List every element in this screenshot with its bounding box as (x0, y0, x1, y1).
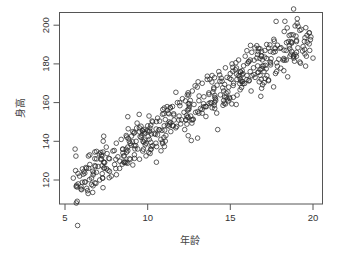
data-point (195, 136, 200, 141)
data-point (255, 64, 260, 69)
data-point (73, 147, 78, 152)
data-point (250, 50, 255, 55)
data-point (144, 154, 149, 159)
data-point (185, 122, 190, 127)
data-point (73, 168, 78, 173)
data-point (296, 46, 301, 51)
data-point (174, 90, 179, 95)
x-tick: 20 (308, 204, 319, 223)
y-tick: 200 (40, 17, 60, 33)
data-point (143, 143, 148, 148)
data-point (75, 199, 80, 204)
data-point (186, 133, 191, 138)
data-point (301, 44, 306, 49)
data-point (146, 134, 151, 139)
data-point (133, 147, 138, 152)
data-point (101, 134, 106, 139)
data-point (154, 127, 159, 132)
x-tick: 15 (225, 204, 236, 223)
data-point (234, 102, 239, 107)
x-tick-label: 5 (62, 212, 67, 223)
data-point (169, 129, 174, 134)
data-point (275, 64, 280, 69)
data-point (182, 110, 187, 115)
data-point (197, 98, 202, 103)
data-point (192, 102, 197, 107)
data-point (292, 59, 297, 64)
data-point (75, 223, 80, 228)
data-point (197, 94, 202, 99)
data-point (107, 169, 112, 174)
y-axis-title: 身高 (14, 98, 26, 118)
data-points (71, 7, 315, 228)
data-point (88, 153, 93, 158)
data-point (114, 172, 119, 177)
data-point (71, 176, 76, 181)
data-point (299, 27, 304, 32)
data-point (229, 77, 234, 82)
y-tick-label: 160 (40, 95, 51, 111)
data-point (215, 127, 220, 132)
y-tick-label: 180 (40, 56, 51, 72)
data-point (243, 54, 248, 59)
data-point (163, 117, 168, 122)
data-point (248, 43, 253, 48)
data-point (129, 134, 134, 139)
data-point (196, 80, 201, 85)
data-point (311, 56, 316, 61)
data-point (178, 103, 183, 108)
y-tick: 140 (40, 133, 60, 149)
data-point (205, 74, 210, 79)
scatter-chart: 5 10 15 20 年龄 120 140 160 18 (0, 0, 341, 259)
data-point (226, 85, 231, 90)
data-point (274, 19, 279, 24)
data-point (304, 25, 309, 30)
data-point (223, 66, 228, 71)
data-point (101, 185, 106, 190)
data-point (279, 66, 284, 71)
data-point (295, 16, 300, 21)
data-point (263, 48, 268, 53)
data-point (303, 64, 308, 69)
data-point (114, 141, 119, 146)
data-point (259, 94, 264, 99)
data-point (214, 111, 219, 116)
data-point (131, 163, 136, 168)
data-point (147, 114, 152, 119)
data-point (126, 127, 131, 132)
data-point (189, 138, 194, 143)
data-point (271, 85, 276, 90)
x-axis-title: 年龄 (180, 234, 200, 246)
x-tick: 5 (62, 204, 67, 223)
data-point (287, 44, 292, 49)
data-point (147, 137, 152, 142)
data-point (135, 121, 140, 126)
y-tick-label: 200 (40, 17, 51, 33)
data-point (159, 149, 164, 154)
data-point (202, 95, 207, 100)
y-tick: 160 (40, 95, 60, 111)
data-point (90, 190, 95, 195)
data-point (182, 127, 187, 132)
y-tick: 120 (40, 172, 60, 188)
data-point (86, 154, 91, 159)
data-point (137, 157, 142, 162)
data-point (154, 160, 159, 165)
y-axis: 120 140 160 180 200 身高 (14, 17, 60, 188)
x-axis: 5 10 15 20 年龄 (62, 204, 318, 246)
data-point (74, 154, 79, 159)
data-point (105, 151, 110, 156)
y-tick-label: 120 (40, 172, 51, 188)
x-tick-label: 20 (308, 212, 319, 223)
data-point (249, 89, 254, 94)
data-point (282, 68, 287, 73)
data-point (119, 137, 124, 142)
data-point (160, 128, 165, 133)
data-point (291, 7, 296, 12)
x-tick: 10 (142, 204, 153, 223)
data-point (137, 112, 142, 117)
data-point (236, 58, 241, 63)
x-tick-label: 10 (142, 212, 153, 223)
data-point (245, 48, 250, 53)
data-point (101, 139, 106, 144)
